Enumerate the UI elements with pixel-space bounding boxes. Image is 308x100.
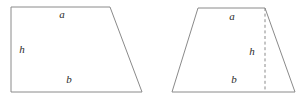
isosceles-trapezoid-label-a: a bbox=[229, 10, 235, 22]
right-trapezoid-label-a: a bbox=[59, 8, 65, 20]
shape-isosceles-trapezoid: a h b bbox=[172, 8, 295, 92]
right-trapezoid-label-b: b bbox=[66, 73, 72, 85]
isosceles-trapezoid-label-h: h bbox=[249, 45, 255, 57]
figure-svg: a h b a h b bbox=[0, 0, 308, 100]
right-trapezoid-label-h: h bbox=[19, 43, 25, 55]
right-trapezoid-outline bbox=[11, 7, 142, 92]
isosceles-trapezoid-label-b: b bbox=[231, 73, 237, 85]
trapezoid-figure: a h b a h b bbox=[0, 0, 308, 100]
shape-right-trapezoid: a h b bbox=[11, 7, 142, 92]
